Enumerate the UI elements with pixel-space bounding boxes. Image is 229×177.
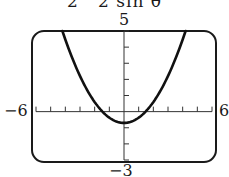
axes xyxy=(36,31,212,160)
graph-window xyxy=(0,0,229,177)
